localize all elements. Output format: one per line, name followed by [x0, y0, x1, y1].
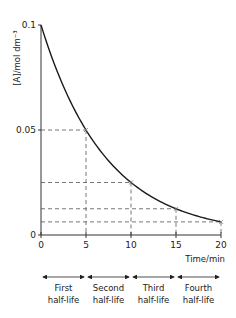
half-life-chart: 0510152000.050.1 [A]/mol dm⁻³ Time/min F… — [0, 0, 236, 318]
y-tick-label: 0.05 — [16, 125, 36, 135]
half-life-annotations: Firsthalf-lifeSecondhalf-lifeThirdhalf-l… — [43, 277, 219, 305]
half-life-label: half-life — [48, 295, 80, 305]
x-tick-label: 0 — [38, 240, 44, 250]
half-life-label: half-life — [93, 295, 125, 305]
half-life-label: Second — [93, 283, 124, 293]
half-life-label: Fourth — [185, 283, 212, 293]
half-life-label: half-life — [138, 295, 170, 305]
x-tick-label: 5 — [83, 240, 89, 250]
x-tick-label: 10 — [125, 240, 137, 250]
x-axis-label: Time/min — [184, 254, 225, 264]
x-tick-label: 15 — [170, 240, 181, 250]
y-axis-label: [A]/mol dm⁻³ — [12, 30, 22, 85]
axes — [38, 25, 221, 238]
data-points — [84, 128, 223, 224]
half-life-label: half-life — [183, 295, 215, 305]
y-tick-label: 0 — [30, 230, 36, 240]
y-tick-label: 0.1 — [22, 20, 36, 30]
half-life-label: Third — [142, 283, 165, 293]
x-tick-label: 20 — [215, 240, 227, 250]
half-life-label: First — [55, 283, 74, 293]
